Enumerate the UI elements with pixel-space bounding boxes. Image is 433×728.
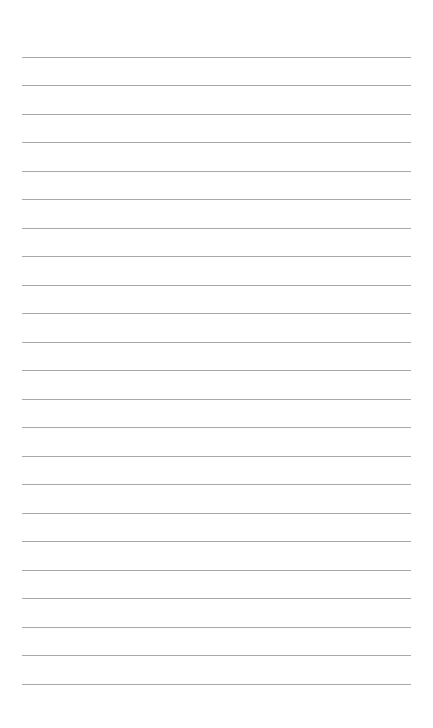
ruled-line (22, 199, 411, 200)
ruled-line (22, 541, 411, 542)
ruled-line (22, 85, 411, 86)
ruled-line (22, 399, 411, 400)
ruled-line (22, 228, 411, 229)
ruled-line (22, 370, 411, 371)
ruled-line (22, 484, 411, 485)
ruled-line (22, 627, 411, 628)
ruled-line (22, 570, 411, 571)
ruled-line (22, 598, 411, 599)
ruled-line (22, 313, 411, 314)
ruled-line (22, 256, 411, 257)
ruled-line (22, 57, 411, 58)
ruled-line (22, 427, 411, 428)
ruled-line (22, 342, 411, 343)
ruled-line (22, 513, 411, 514)
ruled-line (22, 655, 411, 656)
ruled-line (22, 684, 411, 685)
ruled-line (22, 114, 411, 115)
lined-paper-page (0, 0, 433, 728)
ruled-line (22, 142, 411, 143)
ruled-line (22, 171, 411, 172)
ruled-line (22, 456, 411, 457)
ruled-line (22, 285, 411, 286)
